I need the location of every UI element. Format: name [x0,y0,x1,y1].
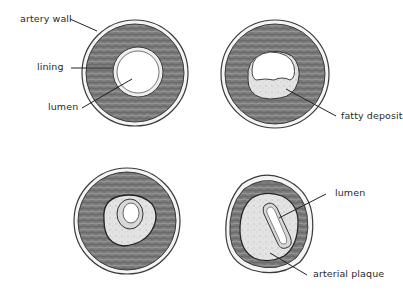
label-lumen-blocked: lumen [335,187,365,198]
narrowed-artery [74,168,180,274]
leader-artery-wall [70,19,97,31]
label-lumen: lumen [48,101,78,112]
blocked-artery [226,175,313,273]
label-artery-wall: artery wall [20,13,72,24]
artery-with-fatty-deposit [221,20,329,128]
healthy-artery [82,20,188,126]
label-fatty-deposit: fatty deposit [341,110,403,121]
label-arterial-plaque: arterial plaque [313,268,384,279]
label-lining: lining [37,61,64,72]
